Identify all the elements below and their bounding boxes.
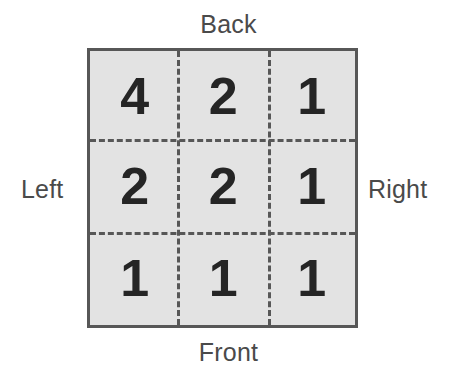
grid-cell-front-left: 1 (90, 232, 178, 325)
direction-label-right: Right (368, 177, 457, 202)
grid-cell-back-left: 4 (90, 51, 178, 140)
cell-value: 2 (209, 70, 237, 122)
grid-cell-middle-right: 1 (267, 140, 355, 232)
grid-cell-back-center: 2 (178, 51, 267, 140)
cell-value: 2 (120, 160, 148, 212)
cell-value: 4 (120, 70, 148, 122)
grid-cell-back-right: 1 (267, 51, 355, 140)
cell-value: 1 (209, 252, 237, 304)
grid-cell-middle-center: 2 (178, 140, 267, 232)
grid-cell-container: 4 2 1 2 2 1 1 1 1 (90, 51, 355, 325)
cell-value: 1 (297, 252, 325, 304)
direction-label-front: Front (0, 340, 457, 365)
cell-value: 2 (209, 160, 237, 212)
cell-value: 1 (120, 252, 148, 304)
grid-cell-middle-left: 2 (90, 140, 178, 232)
grid-diagram: Back Left Right Front 4 2 1 2 2 1 (0, 0, 457, 380)
direction-label-left: Left (0, 177, 80, 202)
cell-value: 1 (297, 160, 325, 212)
direction-label-back: Back (0, 12, 457, 37)
cell-value: 1 (297, 70, 325, 122)
grid-square: 4 2 1 2 2 1 1 1 1 (87, 48, 358, 328)
grid-cell-front-center: 1 (178, 232, 267, 325)
grid-cell-front-right: 1 (267, 232, 355, 325)
